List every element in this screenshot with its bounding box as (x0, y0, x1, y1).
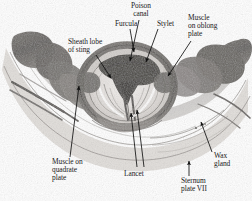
label-stylet: Stylet (157, 20, 174, 28)
label-furcula-line-1: Furcula (115, 20, 137, 28)
figure-sting-apparatus-cross-section: PoisoncanalFurculaStyletMuscleon oblongp… (0, 0, 252, 201)
label-lancet-line-1: Lancet (124, 170, 144, 178)
label-sternum-plate-vii: Sternumplate VII (181, 177, 207, 193)
label-lancet: Lancet (124, 170, 144, 178)
label-poison-canal: Poisoncanal (131, 2, 151, 18)
label-muscle-on-oblong-plate: Muscleon oblongplate (188, 14, 217, 37)
label-muscle-on-oblong-plate-line-3: plate (188, 30, 217, 38)
label-stylet-line-1: Stylet (157, 20, 174, 28)
label-sheath-lobe-of-sting-line-2: of sting (68, 46, 102, 54)
label-wax-gland: Waxgland (214, 152, 230, 168)
label-wax-gland-line-2: gland (214, 160, 230, 168)
label-poison-canal-line-2: canal (131, 10, 151, 18)
label-sheath-lobe-of-sting: Sheath lobeof sting (68, 38, 102, 54)
label-sternum-plate-vii-line-2: plate VII (181, 185, 207, 193)
label-muscle-on-quadrate-plate-line-3: plate (52, 174, 83, 182)
label-furcula: Furcula (115, 20, 137, 28)
label-muscle-on-quadrate-plate: Muscle onquadrateplate (52, 158, 83, 181)
